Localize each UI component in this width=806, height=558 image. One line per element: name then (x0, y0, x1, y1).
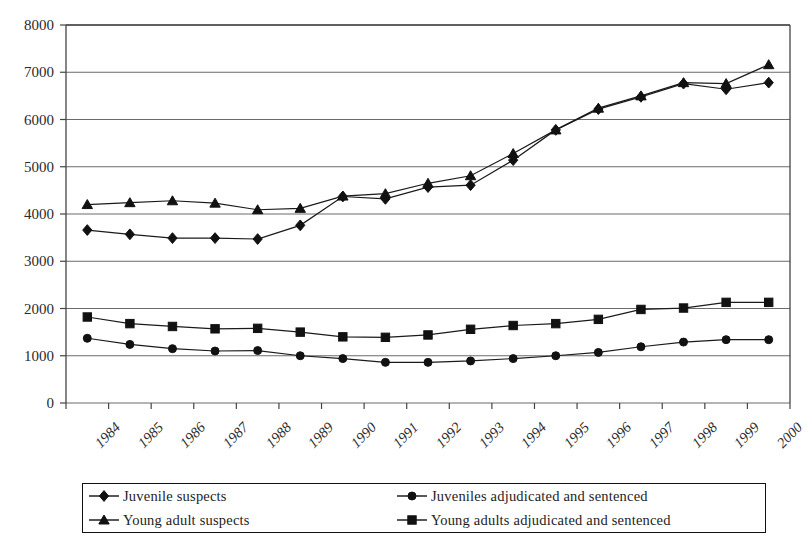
data-point (765, 298, 773, 306)
data-point (83, 334, 91, 342)
triangle-marker-icon (87, 513, 121, 527)
diamond-marker-icon (87, 489, 121, 503)
data-point (424, 331, 432, 339)
square-marker-icon (395, 513, 429, 527)
data-point (254, 347, 262, 355)
data-point (168, 345, 176, 353)
series-line (87, 83, 768, 239)
data-point (467, 357, 475, 365)
legend-item-label: Young adult suspects (123, 512, 250, 529)
series-4 (83, 298, 773, 341)
data-point (168, 322, 176, 330)
legend-item-triangle[interactable]: Young adult suspects (87, 512, 395, 529)
line-chart: 010002000300040005000600070008000 198419… (0, 0, 806, 558)
data-point (424, 358, 432, 366)
data-point (381, 358, 389, 366)
data-point (211, 325, 219, 333)
data-point (211, 347, 219, 355)
data-point (466, 325, 474, 333)
data-point (594, 315, 602, 323)
data-point (167, 196, 177, 205)
legend-item-label: Young adults adjudicated and sentenced (431, 512, 671, 529)
data-point (210, 233, 219, 244)
legend-item-label: Juveniles adjudicated and sentenced (431, 488, 648, 505)
data-point (509, 321, 517, 329)
data-point (508, 149, 518, 158)
y-axis-tick-label: 1000 (24, 348, 54, 364)
y-axis-tick-label: 4000 (24, 206, 54, 222)
data-point (764, 77, 773, 88)
data-point (764, 60, 774, 69)
y-axis-tick-label: 5000 (24, 159, 54, 175)
y-axis-tick-label: 0 (47, 395, 55, 411)
data-point (552, 319, 560, 327)
data-point (83, 313, 91, 321)
data-point (339, 355, 347, 363)
data-point (637, 305, 645, 313)
data-point (296, 352, 304, 360)
data-point (594, 348, 602, 356)
data-point (765, 336, 773, 344)
legend-item-diamond[interactable]: Juvenile suspects (87, 488, 395, 505)
data-point (126, 319, 134, 327)
y-axis-tick-label: 3000 (24, 253, 54, 269)
data-point (125, 229, 134, 240)
data-point (722, 336, 730, 344)
legend-item-circle[interactable]: Juveniles adjudicated and sentenced (395, 488, 765, 505)
data-point (296, 328, 304, 336)
data-point (339, 333, 347, 341)
plot-canvas: 010002000300040005000600070008000 (0, 0, 806, 558)
y-axis-tick-label: 2000 (24, 301, 54, 317)
data-point (253, 234, 262, 245)
legend-item-square[interactable]: Young adults adjudicated and sentenced (395, 512, 765, 529)
data-point (637, 343, 645, 351)
data-point (509, 355, 517, 363)
data-point (722, 298, 730, 306)
data-point (552, 352, 560, 360)
y-axis-tick-label: 7000 (24, 64, 54, 80)
data-point (126, 340, 134, 348)
y-axis-tick-label: 6000 (24, 112, 54, 128)
series-1 (83, 77, 774, 244)
data-point (296, 220, 305, 231)
chart-legend: Juvenile suspectsJuveniles adjudicated a… (82, 483, 766, 533)
data-point (381, 333, 389, 341)
data-point (83, 225, 92, 236)
data-point (168, 233, 177, 244)
data-point (465, 171, 475, 180)
data-point (679, 304, 687, 312)
data-point (680, 338, 688, 346)
circle-marker-icon (395, 489, 429, 503)
data-point (253, 324, 261, 332)
y-axis-tick-label: 8000 (24, 17, 54, 33)
data-point (466, 180, 475, 191)
legend-item-label: Juvenile suspects (123, 488, 227, 505)
